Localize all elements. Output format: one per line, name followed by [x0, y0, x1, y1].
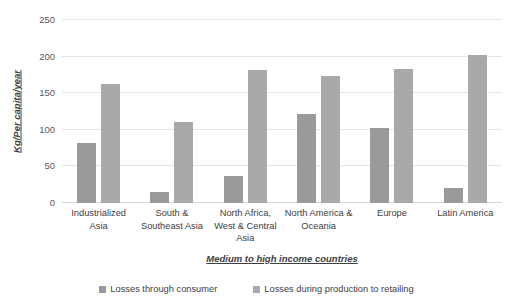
y-tick-label: 150 — [39, 87, 55, 98]
bar — [444, 188, 463, 203]
bar-group — [355, 20, 428, 203]
y-axis-title: Kg/Per capita/year — [11, 52, 22, 172]
x-tick-label-line: Asia — [63, 220, 134, 233]
x-tick-label-line: Latin America — [430, 207, 501, 220]
bar-chart: Kg/Per capita/year 050100150200250 Indus… — [0, 0, 513, 306]
bar — [248, 70, 267, 203]
y-tick-label: 200 — [39, 50, 55, 61]
legend-item[interactable]: Losses through consumer — [99, 284, 217, 294]
x-tick-label-line: Industrialized — [63, 207, 134, 220]
bar-groups — [62, 20, 502, 203]
x-tick-label-line: Asia — [210, 232, 281, 245]
x-tick-label-line: Oceania — [283, 220, 354, 233]
x-axis-category-labels: IndustrializedAsiaSouth &Southeast AsiaN… — [62, 207, 502, 245]
legend-swatch-icon — [99, 286, 106, 293]
legend-item[interactable]: Losses during production to retailing — [253, 284, 413, 294]
x-tick-label: South &Southeast Asia — [135, 207, 208, 245]
x-tick-label-line: North Africa, — [210, 207, 281, 220]
x-tick-label: North Africa,West & CentralAsia — [209, 207, 282, 245]
bar-group — [282, 20, 355, 203]
x-tick-label-line: Southeast Asia — [136, 220, 207, 233]
legend-swatch-icon — [253, 286, 260, 293]
x-axis-title: Medium to high income countries — [62, 253, 502, 264]
x-tick-label-line: Europe — [356, 207, 427, 220]
x-tick-label: North America &Oceania — [282, 207, 355, 245]
y-tick-label: 100 — [39, 123, 55, 134]
legend-label: Losses through consumer — [110, 284, 217, 294]
x-tick-label: Latin America — [429, 207, 502, 245]
bar-group — [209, 20, 282, 203]
bar — [174, 122, 193, 203]
bar — [468, 55, 487, 203]
bar — [297, 114, 316, 203]
bar — [370, 128, 389, 203]
x-tick-label: IndustrializedAsia — [62, 207, 135, 245]
bar — [394, 69, 413, 203]
bar — [321, 76, 340, 203]
y-tick-label: 50 — [44, 160, 55, 171]
bar — [150, 192, 169, 203]
plot-area: 050100150200250 — [62, 20, 502, 203]
x-tick-label-line: West & Central — [210, 220, 281, 233]
bar — [77, 143, 96, 203]
y-tick-label: 250 — [39, 14, 55, 25]
y-tick-label: 0 — [50, 197, 55, 208]
x-tick-label-line: South & — [136, 207, 207, 220]
bar-group — [429, 20, 502, 203]
chart-legend: Losses through consumerLosses during pro… — [0, 284, 513, 294]
legend-label: Losses during production to retailing — [264, 284, 413, 294]
bar-group — [62, 20, 135, 203]
bar — [224, 176, 243, 203]
x-tick-label-line: North America & — [283, 207, 354, 220]
bar — [101, 84, 120, 203]
bar-group — [135, 20, 208, 203]
x-tick-label: Europe — [355, 207, 428, 245]
